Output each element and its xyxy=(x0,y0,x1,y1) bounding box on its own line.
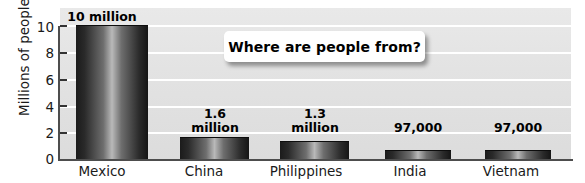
value-label-india: 97,000 xyxy=(375,121,461,135)
value-label-philippines: 1.3 million xyxy=(272,107,358,134)
bar-cap xyxy=(76,25,148,26)
y-tick-label-8: 8 xyxy=(32,47,54,59)
x-tick-label-india: India xyxy=(358,162,462,180)
bar-china xyxy=(180,137,249,159)
y-axis-tick-labels: 10 8 6 4 2 0 xyxy=(20,0,54,183)
y-tick-label-2: 2 xyxy=(32,127,54,139)
y-tick-mark-10 xyxy=(60,25,67,27)
y-axis-line xyxy=(58,26,60,161)
y-tick-label-6: 6 xyxy=(32,74,54,86)
bar-chart-figure: Millions of people 10 8 6 4 2 0 10 milli… xyxy=(0,0,585,183)
y-tick-mark-4 xyxy=(60,105,67,107)
y-tick-label-4: 4 xyxy=(32,101,54,113)
x-tick-label-mexico: Mexico xyxy=(48,162,156,180)
y-tick-label-10: 10 xyxy=(32,21,54,33)
value-label-mexico: 10 million xyxy=(56,10,148,24)
y-tick-mark-6 xyxy=(60,79,67,81)
bar-philippines xyxy=(280,141,349,159)
bar-cap xyxy=(180,137,249,138)
value-label-vietnam: 97,000 xyxy=(475,121,561,135)
bar-india xyxy=(385,150,451,159)
bar-vietnam xyxy=(485,150,551,159)
x-axis-line xyxy=(58,159,573,161)
x-tick-label-philippines: Philippines xyxy=(252,162,360,180)
bar-mexico xyxy=(76,25,148,159)
callout-text: Where are people from? xyxy=(228,39,421,55)
y-tick-mark-2 xyxy=(60,132,67,134)
x-tick-label-china: China xyxy=(152,162,256,180)
callout-box: Where are people from? xyxy=(224,31,425,62)
x-tick-label-vietnam: Vietnam xyxy=(458,162,564,180)
value-label-china: 1.6 million xyxy=(172,107,258,134)
y-tick-mark-8 xyxy=(60,52,67,54)
bar-cap xyxy=(280,141,349,142)
bar-cap xyxy=(485,150,551,151)
bar-cap xyxy=(385,150,451,151)
